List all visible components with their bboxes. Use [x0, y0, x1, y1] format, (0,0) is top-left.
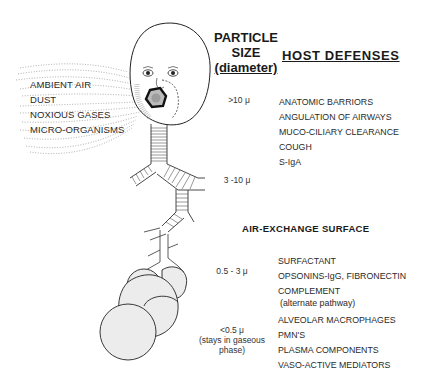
- size-level-0_5-3: 0.5 - 3 μ: [204, 266, 260, 276]
- host-defenses-header: HOST DEFENSES: [282, 48, 400, 63]
- agent-noxious-gases: NOXIOUS GASES: [30, 107, 111, 122]
- size-note-line1: (stays in gaseous: [198, 335, 266, 345]
- size-level-gt10: >10 μ: [214, 95, 264, 105]
- defense-item-note: (alternate pathway): [280, 296, 355, 311]
- header-line-size: SIZE: [204, 45, 288, 60]
- defense-item: ANGULATION OF AIRWAYS: [279, 110, 392, 125]
- defense-item: OPSONINS-IgG, FIBRONECTIN: [278, 269, 406, 284]
- defense-item: S-IgA: [279, 155, 301, 170]
- defense-item: MUCO-CILIARY CLEARANCE: [279, 125, 399, 140]
- defense-item: VASO-ACTIVE MEDIATORS: [278, 358, 390, 373]
- header-line-particle: PARTICLE: [204, 30, 288, 45]
- defense-item: COUGH: [279, 140, 312, 155]
- size-level-3-10: 3 -10 μ: [212, 175, 262, 185]
- defense-item: PLASMA COMPONENTS: [278, 343, 379, 358]
- size-label: <0.5 μ: [198, 325, 266, 335]
- air-exchange-surface-header: AIR-EXCHANGE SURFACE: [242, 223, 369, 234]
- defense-item: ANATOMIC BARRIORS: [279, 95, 373, 110]
- agent-dust: DUST: [30, 92, 56, 107]
- defense-item: SURFACTANT: [278, 254, 336, 269]
- agent-micro-organisms: MICRO-ORGANISMS: [30, 122, 124, 137]
- size-level-lt0_5: <0.5 μ (stays in gaseous phase): [198, 325, 266, 355]
- head: [130, 23, 210, 125]
- agent-ambient-air: AMBIENT AIR: [30, 77, 91, 92]
- size-note-line2: phase): [198, 345, 266, 355]
- header-line-diameter: (diameter): [204, 60, 288, 75]
- particle-size-header: PARTICLE SIZE (diameter): [204, 30, 288, 75]
- defense-item: ALVEOLAR MACROPHAGES: [278, 313, 396, 328]
- trachea: [130, 124, 205, 232]
- defense-item: PMN'S: [278, 328, 305, 343]
- alveoli-cluster: [100, 267, 187, 360]
